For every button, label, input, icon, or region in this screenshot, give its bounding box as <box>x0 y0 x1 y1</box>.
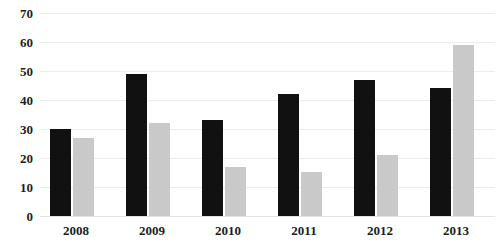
bar-2008-series-1 <box>50 129 71 216</box>
x-axis-tick-label-2009: 2009 <box>114 224 190 237</box>
y-axis-tick-label: 60 <box>0 36 33 49</box>
x-axis-tick-label-2011: 2011 <box>266 224 342 237</box>
y-axis-tick-label: 50 <box>0 65 33 78</box>
bar-2010-series-2 <box>225 167 246 216</box>
bar-2010-series-1 <box>202 120 223 216</box>
plot-area: 200820092010201120122013 <box>40 0 495 251</box>
bar-2013-series-1 <box>430 88 451 216</box>
x-axis-tick-label-2008: 2008 <box>38 224 114 237</box>
bar-2013-series-2 <box>453 45 474 216</box>
y-axis-tick-label: 10 <box>0 181 33 194</box>
x-axis-tick-label-2013: 2013 <box>418 224 494 237</box>
bar-2011-series-1 <box>278 94 299 216</box>
y-axis-tick-label: 30 <box>0 123 33 136</box>
bar-2011-series-2 <box>301 172 322 216</box>
y-axis-tick-label: 70 <box>0 7 33 20</box>
bar-2009-series-2 <box>149 123 170 216</box>
y-axis-tick-label: 40 <box>0 94 33 107</box>
x-axis-tick-label-2012: 2012 <box>342 224 418 237</box>
y-axis-tick-label: 0 <box>0 210 33 223</box>
bar-2012-series-2 <box>377 155 398 216</box>
bar-chart: 706050403020100 200820092010201120122013 <box>0 0 501 251</box>
bar-2008-series-2 <box>73 138 94 216</box>
bar-2009-series-1 <box>126 74 147 216</box>
bar-2012-series-1 <box>354 80 375 216</box>
x-axis-tick-label-2010: 2010 <box>190 224 266 237</box>
y-axis-tick-label: 20 <box>0 152 33 165</box>
